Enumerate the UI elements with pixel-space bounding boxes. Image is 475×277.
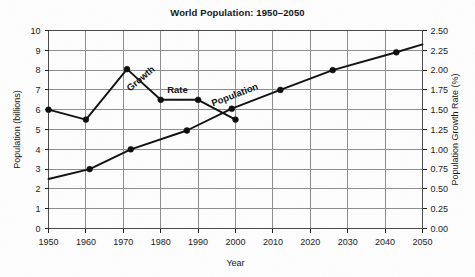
data-point-marker [393,49,399,55]
x-tick-label: 1970 [113,237,133,247]
y2-axis-tick-labels: 0.000.250.500.751.001.251.501.752.002.25… [431,26,449,234]
chart-plot-area: 012345678910 0.000.250.500.751.001.251.5… [0,0,475,277]
data-point-marker [46,107,52,113]
y2-tick-label: 0.50 [431,184,449,194]
data-point-marker [184,128,190,134]
data-point-marker [229,106,235,112]
y-tick-label: 2 [35,184,40,194]
y2-tick-label: 1.00 [431,145,449,155]
data-point-marker [87,166,93,172]
x-tick-label: 1990 [188,237,208,247]
series-label-population: Population [210,80,260,108]
y-tick-label: 0 [35,224,40,234]
y2-tick-label: 0.00 [431,224,449,234]
x-tick-label: 2040 [375,237,395,247]
y-axis-title: Population (billions) [12,90,22,169]
y-tick-label: 8 [35,65,40,75]
y2-tick-label: 2.00 [431,65,449,75]
x-tick-label: 1960 [76,237,96,247]
y-tick-label: 5 [35,125,40,135]
x-tick-label: 2000 [225,237,245,247]
data-point-marker [128,146,134,152]
y-tick-label: 10 [30,26,40,36]
y2-tick-label: 1.50 [431,105,449,115]
y-axis-tick-labels: 012345678910 [30,26,40,234]
chart-figure: World Population: 1950–2050 012345678910… [0,0,475,277]
data-point-marker [233,117,239,123]
data-point-marker [83,117,89,123]
data-point-marker [158,97,164,103]
x-tick-label: 2050 [412,237,432,247]
x-tick-label: 1950 [38,237,58,247]
data-point-marker [330,67,336,73]
y-tick-label: 9 [35,46,40,56]
y2-tick-label: 2.25 [431,46,449,56]
x-tick-label: 2010 [263,237,283,247]
y2-tick-label: 1.75 [431,85,449,95]
y-tick-label: 4 [35,145,40,155]
y2-tick-label: 0.25 [431,204,449,214]
x-tick-label: 2030 [338,237,358,247]
x-axis-tick-labels: 1950196019701980199020002010202020302040… [38,237,432,247]
y-tick-label: 1 [35,204,40,214]
y-tick-label: 7 [35,85,40,95]
y2-tick-label: 2.50 [431,26,449,36]
x-axis-title: Year [226,258,244,268]
data-point-marker [277,87,283,93]
data-point-marker [124,66,130,72]
x-tick-label: 1980 [151,237,171,247]
x-tick-label: 2020 [300,237,320,247]
data-series-layer [46,44,423,179]
series-label-rate: Rate [167,84,188,95]
y2-tick-label: 0.75 [431,164,449,174]
y-tick-label: 3 [35,164,40,174]
y2-tick-label: 1.25 [431,125,449,135]
y-tick-label: 6 [35,105,40,115]
y2-axis-title: Population Growth Rate (%) [450,73,460,185]
data-point-marker [195,97,201,103]
